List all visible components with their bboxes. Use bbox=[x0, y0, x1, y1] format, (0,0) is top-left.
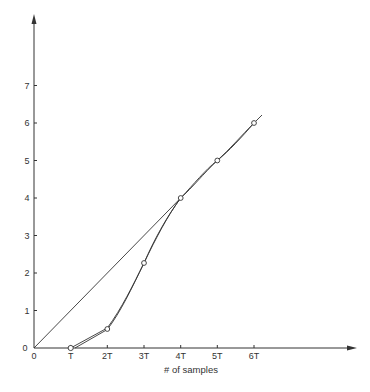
y-tick-label: 2 bbox=[24, 268, 29, 278]
data-point-marker bbox=[215, 158, 220, 163]
x-tick-label: T bbox=[68, 351, 74, 361]
x-tick-label: 4T bbox=[175, 351, 186, 361]
data-point-markers bbox=[68, 121, 256, 351]
x-tick-label: 5T bbox=[212, 351, 223, 361]
y-tick-label: 6 bbox=[24, 118, 29, 128]
y-tick-label: 1 bbox=[24, 306, 29, 316]
chart: 0 1 2 3 4 5 6 7 0 T 2T 3T 4T 5T 6T # of … bbox=[0, 0, 370, 392]
series-lower-trace bbox=[75, 123, 254, 348]
data-point-marker bbox=[178, 196, 183, 201]
x-tick-label: 0 bbox=[31, 351, 36, 361]
reference-line bbox=[34, 198, 181, 348]
x-tick-label: 6T bbox=[249, 351, 260, 361]
x-tick-label: 3T bbox=[139, 351, 150, 361]
x-axis-arrow-icon bbox=[347, 346, 357, 351]
x-ticks: 0 T 2T 3T 4T 5T 6T bbox=[31, 345, 259, 361]
series-upper-trace bbox=[71, 115, 262, 348]
y-tick-label: 0 bbox=[22, 343, 27, 353]
y-ticks: 0 1 2 3 4 5 6 7 bbox=[22, 81, 37, 354]
y-tick-label: 3 bbox=[24, 231, 29, 241]
y-tick-label: 4 bbox=[24, 193, 29, 203]
y-tick-label: 7 bbox=[24, 81, 29, 91]
data-point-marker bbox=[142, 261, 147, 266]
x-axis-title: # of samples bbox=[164, 364, 218, 375]
y-tick-label: 5 bbox=[24, 156, 29, 166]
data-point-marker bbox=[68, 345, 73, 350]
data-point-marker bbox=[105, 327, 110, 332]
x-tick-label: 2T bbox=[102, 351, 113, 361]
y-axis-arrow-icon bbox=[32, 14, 37, 24]
data-point-marker bbox=[252, 121, 257, 126]
